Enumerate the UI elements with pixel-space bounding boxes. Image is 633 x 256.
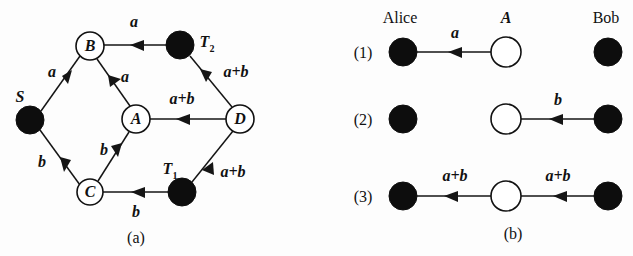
node-row1-bob [594, 38, 622, 66]
arrow-label-row3-right: a+b [545, 168, 570, 184]
node-row3-relay [491, 181, 521, 211]
arrow-label-row2-b: b [554, 92, 562, 108]
figure-network-coding-diagram: S B A C D T2 T1 a b a a b b a+b a+b a+b … [0, 0, 633, 256]
node-row1-relay [491, 37, 521, 67]
arrow-row2-bob-to-relay-head [549, 114, 563, 125]
arrow-row3-relay-to-alice-head [444, 191, 458, 202]
panel-b-nodes [389, 37, 622, 211]
step-label-2: (2) [354, 112, 373, 128]
arrow-row3-relay-to-bob-head [553, 191, 567, 202]
arrow-row1-alice-to-relay-head [448, 47, 462, 58]
column-header-alice: Alice [383, 10, 418, 26]
node-row2-alice [389, 105, 417, 133]
column-header-bob: Bob [593, 10, 620, 26]
column-header-relay: A [501, 10, 512, 26]
node-row3-alice [389, 182, 417, 210]
node-row2-bob [594, 105, 622, 133]
panel-b-row2-arrows [521, 114, 594, 125]
arrow-label-row1-a: a [451, 25, 459, 41]
node-row3-bob [594, 182, 622, 210]
panel-b-row1-arrows [417, 47, 491, 58]
panel-b-caption: (b) [504, 226, 523, 242]
arrow-label-row3-left: a+b [442, 168, 467, 184]
node-row2-relay [491, 104, 521, 134]
step-label-1: (1) [354, 45, 373, 61]
node-row1-alice [389, 38, 417, 66]
panel-b-graph-layer [0, 0, 633, 256]
step-label-3: (3) [354, 189, 373, 205]
